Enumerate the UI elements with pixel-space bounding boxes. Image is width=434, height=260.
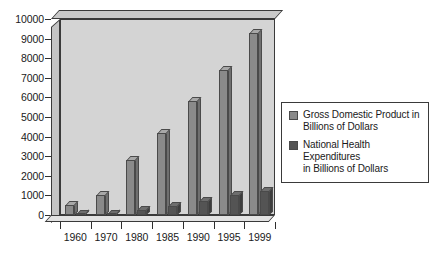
chart-legend: Gross Domestic Product in Billions of Do… <box>281 102 429 183</box>
legend-label-gdp-line2: Billions of Dollars <box>303 121 378 132</box>
y-tick-label: 3000 <box>0 151 44 161</box>
bar-gdp-side <box>197 98 201 215</box>
plot-left-face <box>51 19 60 223</box>
bar-group <box>60 19 91 215</box>
bar-health-front <box>168 206 177 215</box>
legend-item-gdp: Gross Domestic Product in Billions of Do… <box>289 109 421 133</box>
y-tick-label: 7000 <box>0 73 44 83</box>
x-tick-mark <box>214 222 215 229</box>
bar-group <box>91 19 122 215</box>
legend-label-health-line1: National Health Expenditures <box>303 139 370 162</box>
plot-floor <box>45 215 275 222</box>
bar-group <box>121 19 152 215</box>
x-tick-mark <box>60 222 61 229</box>
legend-swatch-health-icon <box>289 141 298 150</box>
bar-gdp <box>249 33 258 215</box>
bar-group <box>244 19 275 215</box>
x-tick-mark <box>244 222 245 229</box>
bar-gdp <box>188 101 197 215</box>
legend-label-gdp-line1: Gross Domestic Product in <box>303 109 419 120</box>
bar-health-front <box>230 195 239 215</box>
bar-gdp-side <box>228 66 232 215</box>
bar-gdp <box>65 205 74 215</box>
bar-gdp <box>157 133 166 215</box>
bar-gdp-front <box>126 160 135 215</box>
x-tick-label: 1999 <box>240 231 280 243</box>
legend-label-health: National Health Expenditures in Billions… <box>303 139 421 175</box>
bar-gdp <box>126 160 135 215</box>
legend-item-health: National Health Expenditures in Billions… <box>289 139 421 175</box>
bar-group <box>183 19 214 215</box>
y-axis: 0100020003000400050006000700080009000100… <box>0 0 44 260</box>
y-tick-label: 5000 <box>0 112 44 122</box>
bar-gdp-front <box>188 101 197 215</box>
x-tick-mark <box>121 222 122 229</box>
bar-group <box>214 19 245 215</box>
bar-chart: 0100020003000400050006000700080009000100… <box>0 0 434 260</box>
bar-gdp-front <box>96 195 105 215</box>
legend-swatch-gdp-icon <box>289 111 298 120</box>
x-tick-mark <box>152 222 153 229</box>
y-tick-label: 4000 <box>0 132 44 142</box>
bar-gdp-front <box>219 70 228 215</box>
bar-health <box>199 201 208 215</box>
bars-layer <box>60 19 275 215</box>
x-tick-mark <box>183 222 184 229</box>
bar-gdp-side <box>166 129 170 215</box>
y-tick-label: 1000 <box>0 190 44 200</box>
y-tick-label: 8000 <box>0 53 44 63</box>
plot-area <box>51 10 275 222</box>
bar-gdp <box>219 70 228 215</box>
bar-group <box>152 19 183 215</box>
legend-label-health-line2: in Billions of Dollars <box>303 163 388 174</box>
bar-gdp-front <box>65 205 74 215</box>
bar-gdp <box>96 195 105 215</box>
x-tick-mark <box>275 222 276 229</box>
y-tick-label: 6000 <box>0 92 44 102</box>
bar-gdp-side <box>135 157 139 215</box>
bar-gdp-front <box>249 33 258 215</box>
y-tick-label: 0 <box>0 210 44 220</box>
bar-health-front <box>199 201 208 215</box>
bar-health-side <box>269 188 273 215</box>
bar-health-front <box>260 191 269 215</box>
bar-health <box>230 195 239 215</box>
x-axis: 1960197019801985199019951999 <box>51 222 285 252</box>
y-tick-label: 10000 <box>0 14 44 24</box>
y-tick-label: 9000 <box>0 34 44 44</box>
bar-health <box>168 206 177 215</box>
plot-top-face <box>51 10 283 19</box>
x-tick-mark <box>91 222 92 229</box>
bar-gdp-front <box>157 133 166 215</box>
bar-health <box>260 191 269 215</box>
y-tick-label: 2000 <box>0 171 44 181</box>
bar-gdp-side <box>258 29 262 215</box>
legend-label-gdp: Gross Domestic Product in Billions of Do… <box>303 109 419 133</box>
